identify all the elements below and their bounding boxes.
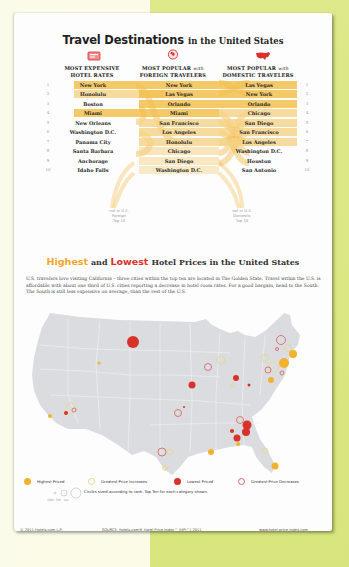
- map-point: [248, 384, 251, 387]
- size-key-labels: 10th 5th 1st: [47, 498, 87, 502]
- intro-paragraph: U.S. travelers love visiting California …: [26, 276, 324, 296]
- map-point: [127, 336, 139, 348]
- domestic-city: Los Angeles: [219, 138, 299, 146]
- domestic-city: Washington D.C.: [219, 147, 299, 155]
- map-point: [233, 375, 239, 381]
- map-point: [208, 449, 214, 455]
- legend-lowest-priced: Lowest Priced: [174, 477, 213, 485]
- domestic-city: New York: [219, 90, 299, 98]
- map-point: [289, 350, 297, 358]
- foreign-city: New York: [139, 81, 219, 89]
- foreign-city: Los Angeles: [139, 128, 219, 136]
- hotel-prices-title: Highest and LowestHotel Prices in the Un…: [14, 256, 332, 267]
- foreign-city: Chicago: [139, 147, 219, 155]
- map-point: [268, 377, 274, 383]
- filled-circle-icon: [24, 478, 31, 485]
- map-point: [64, 411, 68, 415]
- ring-circle-icon: [88, 478, 95, 485]
- expensive-city: Anchorage: [49, 157, 137, 165]
- foreign-city: Miami: [139, 109, 219, 117]
- expensive-city: Washington D.C.: [49, 128, 137, 136]
- domestic-city: Orlando: [219, 100, 299, 108]
- note-domestic: not in U.S. Domestic Top 10: [227, 208, 257, 223]
- domestic-city: Houston: [219, 157, 299, 165]
- domestic-city: San Diego: [219, 119, 299, 127]
- domestic-city: Las Vegas: [219, 81, 299, 89]
- note-foreign: not in U.S. Foreign Top 10: [104, 208, 134, 223]
- size-note: Circles sized according to rank. Top Ten…: [84, 489, 208, 494]
- domestic-city: Chicago: [219, 109, 299, 117]
- map-point: [272, 463, 279, 470]
- expensive-city: Panama City: [49, 138, 137, 146]
- foreign-city: San Francisco: [139, 119, 219, 127]
- map-point: [234, 435, 241, 442]
- map-point: [230, 429, 234, 433]
- map-point: [242, 428, 250, 436]
- expensive-city: Miami: [49, 109, 137, 117]
- copyright: © 2011 Hotels.com L.P.: [20, 528, 62, 532]
- source-url[interactable]: www.hotel-price-index.com: [259, 528, 308, 532]
- map-point: [279, 358, 289, 368]
- map-point: [48, 414, 52, 418]
- domestic-city: San Antonio: [219, 166, 299, 174]
- filled-circle-icon: [174, 478, 181, 485]
- foreign-city: Honolulu: [139, 138, 219, 146]
- source: SOURCE: hotels.com® Hotel Price Index™ (…: [102, 528, 202, 532]
- map-legend: Highest Priced Greatest Price Increases …: [14, 477, 332, 517]
- map-point: [98, 362, 101, 365]
- expensive-city: New York: [49, 81, 137, 89]
- map-point: [183, 406, 185, 408]
- expensive-city: Santa Barbara: [49, 147, 137, 155]
- us-map: [20, 305, 326, 477]
- foreign-city: Orlando: [139, 100, 219, 108]
- infographic-page: Travel Destinationsin the United States …: [14, 13, 332, 531]
- foreign-city: San Diego: [139, 157, 219, 165]
- ring-circle-icon: [238, 478, 245, 485]
- expensive-city: Honolulu: [49, 90, 137, 98]
- map-point: [236, 442, 240, 446]
- legend-highest-priced: Highest Priced: [24, 477, 64, 485]
- domestic-city: San Francisco: [219, 128, 299, 136]
- foreign-city: Las Vegas: [139, 90, 219, 98]
- legend-price-decreases: Greatest Price Decreases: [238, 477, 299, 485]
- legend-price-increases: Greatest Price Increases: [88, 477, 147, 485]
- foreign-city: Washington D.C.: [139, 166, 219, 174]
- expensive-city: New Orleans: [49, 119, 137, 127]
- expensive-city: Idaho Falls: [49, 166, 137, 174]
- map-point: [189, 382, 196, 389]
- expensive-city: Boston: [49, 100, 137, 108]
